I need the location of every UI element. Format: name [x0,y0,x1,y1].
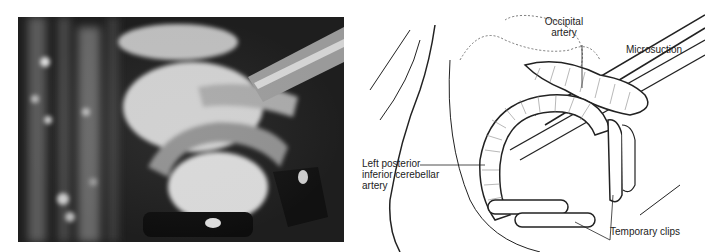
label-line: artery [540,27,588,38]
illustration-drawing [360,0,705,252]
label-occipital-artery: Occipital artery [540,16,588,38]
label-microsuction: Microsuction [626,44,682,55]
label-temporary-clips: Temporary clips [610,226,680,237]
label-pica: Left posterior inferior cerebellar arter… [362,158,439,191]
label-line: inferior cerebellar [362,169,439,180]
label-line: artery [362,180,439,191]
photo-image [18,17,344,242]
anatomical-illustration: Occipital artery Microsuction Left poste… [360,0,705,252]
label-line: Left posterior [362,158,439,169]
surgical-photo [18,17,344,242]
label-line: Occipital [540,16,588,27]
